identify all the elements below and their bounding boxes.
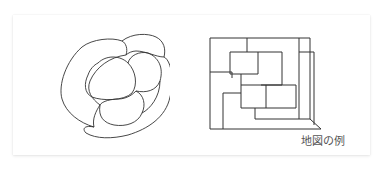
figure-card: 地図の例 <box>13 15 370 155</box>
figure-caption: 地図の例 <box>301 132 345 148</box>
grid-map-figure <box>203 35 323 140</box>
region-map-figure <box>40 27 170 147</box>
clipped-heading <box>40 0 200 3</box>
grid-map-drawing <box>203 35 323 140</box>
region-map-drawing <box>40 27 170 147</box>
